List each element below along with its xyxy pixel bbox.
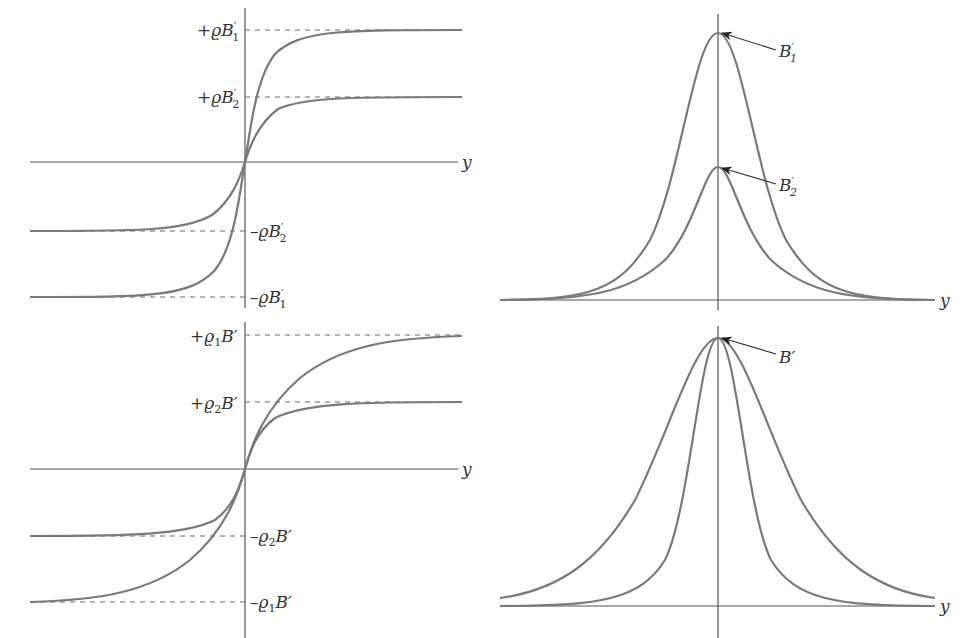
label-neg-rho1-b: –ϱ1B′ bbox=[250, 592, 292, 615]
label-pos-rho-b2: +ϱB′2 bbox=[197, 87, 239, 111]
label-b: B′ bbox=[778, 347, 795, 367]
panel-bottom-right: y B′ bbox=[500, 326, 950, 638]
figure: y +ϱB′1 +ϱB′2 –ϱB′2 –ϱB′1 y B′1 B′2 y bbox=[0, 0, 977, 638]
label-neg-rho2-b: –ϱ2B′ bbox=[250, 526, 292, 549]
curve-1 bbox=[30, 30, 462, 297]
label-pos-rho1-b: +ϱ1B′ bbox=[190, 326, 238, 349]
panel-bottom-left: y +ϱ1B′ +ϱ2B′ –ϱ2B′ –ϱ1B′ bbox=[30, 322, 472, 638]
axis-label-y: y bbox=[939, 596, 950, 616]
axis-label-y: y bbox=[461, 152, 472, 172]
axis-label-y: y bbox=[939, 290, 950, 310]
label-pos-rho-b1: +ϱB′1 bbox=[197, 20, 239, 44]
label-neg-rho-b1: –ϱB′1 bbox=[250, 287, 287, 311]
label-pos-rho2-b: +ϱ2B′ bbox=[190, 393, 238, 416]
label-b2: B′2 bbox=[778, 175, 797, 199]
axis-label-y: y bbox=[461, 459, 472, 479]
curve-2 bbox=[30, 97, 462, 231]
label-neg-rho-b2: –ϱB′2 bbox=[250, 221, 287, 245]
label-b1: B′1 bbox=[778, 41, 797, 65]
panel-top-right: y B′1 B′2 bbox=[500, 14, 950, 310]
panel-top-left: y +ϱB′1 +ϱB′2 –ϱB′2 –ϱB′1 bbox=[30, 8, 472, 311]
